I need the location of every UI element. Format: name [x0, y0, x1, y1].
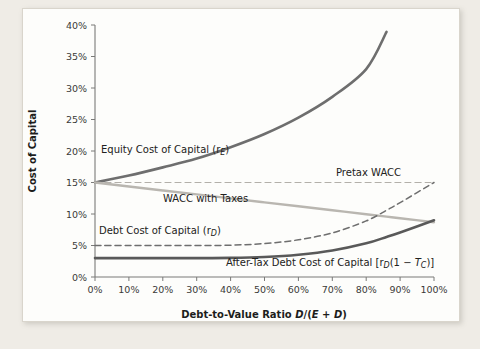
- y-tick-label: 10%: [66, 209, 87, 220]
- x-tick-label: 20%: [152, 284, 173, 295]
- y-axis-ticks: 0%5%10%15%20%25%30%35%40%: [66, 20, 95, 283]
- x-tick-label: 80%: [356, 284, 377, 295]
- x-axis-title: Debt-to-Value Ratio D/(E + D): [181, 309, 347, 320]
- x-tick-label: 60%: [288, 284, 309, 295]
- y-tick-label: 0%: [72, 272, 87, 283]
- label-after-tax-debt-cost-of-capital: After-Tax Debt Cost of Capital [rD(1 − T…: [226, 257, 434, 270]
- label-debt-cost-of-capital: Debt Cost of Capital (rD): [99, 225, 221, 238]
- y-tick-label: 40%: [66, 20, 87, 31]
- x-tick-label: 10%: [118, 284, 139, 295]
- y-tick-label: 20%: [66, 146, 87, 157]
- x-tick-label: 30%: [186, 284, 207, 295]
- label-wacc-with-taxes: WACC with Taxes: [163, 193, 248, 204]
- chart-plot: 0%5%10%15%20%25%30%35%40% 0%10%20%30%40%…: [0, 0, 480, 349]
- x-tick-label: 90%: [390, 284, 411, 295]
- series-line-2: [95, 183, 434, 223]
- x-tick-label: 0%: [87, 284, 102, 295]
- x-tick-label: 40%: [220, 284, 241, 295]
- y-tick-label: 15%: [66, 177, 87, 188]
- y-axis-title: Cost of Capital: [27, 110, 38, 193]
- x-tick-label: 50%: [254, 284, 275, 295]
- y-tick-label: 25%: [66, 114, 87, 125]
- series-line-3: [95, 183, 434, 246]
- x-tick-label: 100%: [420, 284, 447, 295]
- series-line-0: [95, 32, 387, 183]
- y-tick-label: 5%: [72, 240, 87, 251]
- label-pretax-wacc: Pretax WACC: [336, 167, 401, 178]
- y-tick-label: 30%: [66, 83, 87, 94]
- x-tick-label: 70%: [322, 284, 343, 295]
- y-tick-label: 35%: [66, 51, 87, 62]
- figure-container: 0%5%10%15%20%25%30%35%40% 0%10%20%30%40%…: [0, 0, 480, 349]
- x-axis-ticks: 0%10%20%30%40%50%60%70%80%90%100%: [87, 277, 447, 295]
